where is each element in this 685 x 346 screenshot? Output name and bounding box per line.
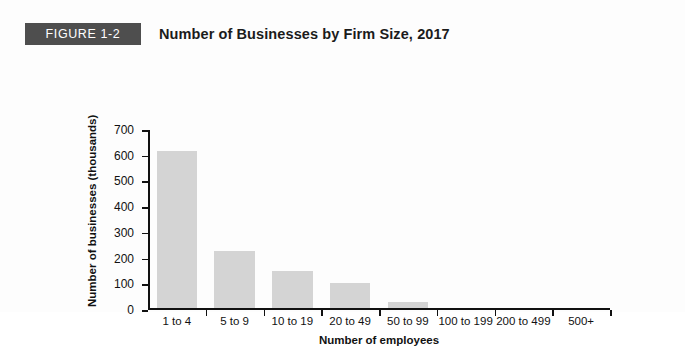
- x-axis-tick-mark: [610, 310, 612, 316]
- y-axis-tick-mark: [142, 130, 148, 132]
- plot-box: [148, 130, 610, 310]
- y-axis-title: Number of businesses (thousands): [84, 131, 100, 307]
- x-axis-tick-label: 200 to 499: [495, 314, 553, 328]
- y-axis-tick-label: 0: [104, 304, 134, 316]
- bar-series: [148, 130, 610, 308]
- y-axis-tick-mark: [142, 156, 148, 158]
- y-axis-tick-label: 300: [104, 227, 134, 239]
- x-axis-tick-label: 50 to 99: [379, 314, 437, 328]
- y-axis-tick-label: 400: [104, 201, 134, 213]
- x-axis-tick-label: 100 to 199: [437, 314, 495, 328]
- y-axis-tick-mark: [142, 310, 148, 312]
- y-axis-tick-label: 500: [104, 175, 134, 187]
- y-axis-tick-mark: [142, 233, 148, 235]
- y-axis-tick-label: 100: [104, 278, 134, 290]
- y-axis-tick-mark: [142, 259, 148, 261]
- x-axis-tick-label: 20 to 49: [321, 314, 379, 328]
- x-axis-title: Number of employees: [148, 334, 610, 346]
- bar: [157, 151, 197, 309]
- y-axis-tick-label: 700: [104, 124, 134, 136]
- y-axis-tick-mark: [142, 207, 148, 209]
- chart-canvas: Number of businesses (thousands) 7006005…: [0, 58, 685, 312]
- x-axis-tick-labels: 1 to 45 to 910 to 1920 to 4950 to 99100 …: [148, 314, 610, 330]
- figure-header: FIGURE 1-2 Number of Businesses by Firm …: [0, 18, 685, 50]
- x-axis-tick-label: 10 to 19: [264, 314, 322, 328]
- bar: [214, 251, 254, 308]
- y-axis-tick-mark: [142, 284, 148, 286]
- figure-number-badge: FIGURE 1-2: [25, 23, 141, 45]
- figure-title: Number of Businesses by Firm Size, 2017: [159, 26, 450, 42]
- bar: [388, 302, 428, 308]
- y-axis-tick-label: 600: [104, 150, 134, 162]
- x-axis-tick-label: 5 to 9: [206, 314, 264, 328]
- y-axis-tick-label: 200: [104, 253, 134, 265]
- y-axis-tick-labels: 7006005004003002001000: [104, 124, 134, 310]
- bar: [330, 283, 370, 308]
- x-axis-tick-label: 500+: [552, 314, 610, 328]
- bar: [272, 271, 312, 308]
- y-axis-tick-mark: [142, 181, 148, 183]
- x-axis-tick-label: 1 to 4: [148, 314, 206, 328]
